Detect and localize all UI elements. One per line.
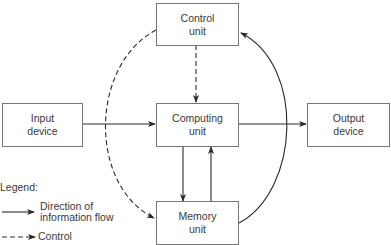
input-device-box: Input device	[2, 103, 83, 147]
control-unit-box: Control unit	[156, 3, 239, 46]
output-device-label-1: Output	[333, 112, 365, 125]
input-device-label-2: device	[27, 125, 57, 138]
control-unit-label-1: Control	[181, 12, 215, 25]
legend-title: Legend:	[0, 181, 38, 193]
arc-memory-to-control	[239, 33, 287, 223]
output-device-box: Output device	[307, 103, 390, 147]
computing-unit-label-1: Computing	[172, 112, 223, 125]
memory-unit-label-1: Memory	[179, 210, 217, 223]
memory-unit-box: Memory unit	[156, 201, 239, 245]
computing-unit-box: Computing unit	[156, 103, 239, 147]
output-device-label-2: device	[333, 125, 363, 138]
legend-solid-label-2: information flow	[40, 212, 114, 223]
control-unit-label-2: unit	[189, 25, 206, 38]
memory-unit-label-2: unit	[189, 223, 206, 236]
computing-unit-label-2: unit	[189, 125, 206, 138]
input-device-label-1: Input	[31, 112, 54, 125]
legend-dashed-label: Control	[38, 231, 72, 242]
